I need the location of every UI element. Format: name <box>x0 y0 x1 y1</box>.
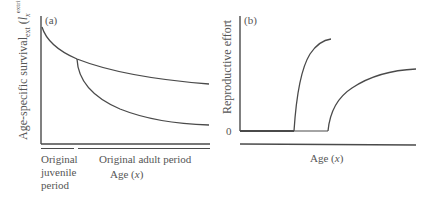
panel-b-y-axis-label: Reproductive effort <box>220 19 234 114</box>
increased-mortality-survival-curve <box>77 59 209 125</box>
original-survival-curve <box>42 27 209 84</box>
panel-b-x-axis <box>240 144 416 145</box>
panel-a: (a) Age-specific survivalext (lxextrinsi… <box>14 0 210 191</box>
delayed-reproduction-curve <box>328 69 416 131</box>
zero-tick-label: 0 <box>226 125 232 137</box>
figure: (a) Age-specific survivalext (lxextrinsi… <box>0 0 434 197</box>
panel-a-y-axis-label: Age-specific survivalext (lxextrinsic) <box>14 0 32 140</box>
panel-b-x-axis-label: Age (x) <box>310 152 344 165</box>
panel-a-label: (a) <box>45 14 58 27</box>
juvenile-label-line2: juvenile <box>40 166 77 178</box>
juvenile-label-line3: period <box>41 179 70 191</box>
juvenile-label-line1: Original <box>41 153 78 165</box>
adult-period-label: Original adult period <box>99 153 192 165</box>
early-reproduction-curve <box>294 39 331 131</box>
panel-b: (b) Reproductive effort 0 Age (x) <box>220 14 416 165</box>
panel-b-label: (b) <box>244 14 257 27</box>
panel-a-x-axis-label: Age (x) <box>110 168 144 181</box>
